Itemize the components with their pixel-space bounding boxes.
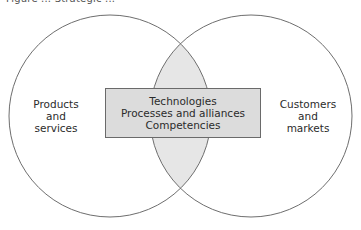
intersection-line-processes: Processes and alliances bbox=[121, 107, 245, 119]
intersection-box: Technologies Processes and alliances Com… bbox=[105, 88, 261, 138]
label-line: Products bbox=[20, 98, 92, 110]
intersection-line-technologies: Technologies bbox=[149, 95, 216, 107]
label-line: and bbox=[20, 110, 92, 122]
intersection-line-competencies: Competencies bbox=[146, 119, 221, 131]
label-line: services bbox=[20, 122, 92, 134]
label-products-services: Products and services bbox=[20, 98, 92, 134]
figure-title-clipped: Figure ... Strategic ... bbox=[6, 0, 115, 4]
label-line: and bbox=[272, 110, 344, 122]
label-customers-markets: Customers and markets bbox=[272, 98, 344, 134]
label-line: Customers bbox=[272, 98, 344, 110]
label-line: markets bbox=[272, 122, 344, 134]
